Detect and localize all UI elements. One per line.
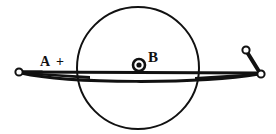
field-out-of-page-center-dot [136, 62, 141, 67]
polarity-plus-label: + [56, 55, 64, 69]
switch-open-contact-node[interactable] [242, 46, 249, 53]
magnetic-field-b-label: B [148, 50, 158, 65]
terminal-a-label: A [40, 55, 50, 69]
physics-figure: A + B [0, 0, 276, 134]
switch-pivot-node [257, 70, 264, 77]
left-terminal-node [15, 68, 22, 75]
switch-lever-arm[interactable] [247, 52, 260, 73]
